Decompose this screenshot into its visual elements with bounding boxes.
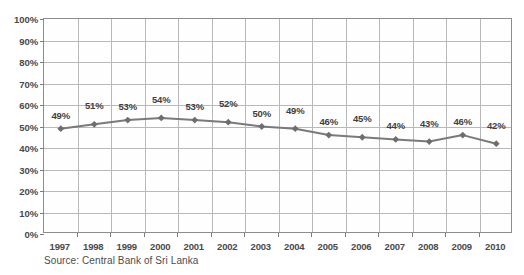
y-axis-tick-label: 60% <box>19 100 38 111</box>
x-axis-tick <box>77 233 78 237</box>
data-point-marker <box>493 140 500 147</box>
x-axis-tick-label: 2002 <box>217 241 237 252</box>
x-axis-tick-label: 1997 <box>50 241 70 252</box>
data-point-label: 53% <box>186 101 204 112</box>
x-axis-tick <box>378 233 379 237</box>
data-point-marker <box>325 132 332 139</box>
x-axis-tick-label: 2005 <box>318 241 338 252</box>
data-point-label: 45% <box>353 113 371 124</box>
y-axis-tick-label: 30% <box>19 164 38 175</box>
data-point-marker <box>292 125 299 132</box>
cut-off-title-sliver <box>0 0 524 8</box>
x-axis-tick <box>177 233 178 237</box>
data-point-marker <box>359 134 366 141</box>
y-axis-tick-label: 80% <box>19 57 38 68</box>
x-axis-tick-label: 2000 <box>150 241 170 252</box>
data-point-marker <box>191 117 198 124</box>
data-point-marker <box>124 117 131 124</box>
y-axis-tick-label: 40% <box>19 143 38 154</box>
x-axis-tick <box>278 233 279 237</box>
data-point-label: 43% <box>420 118 438 129</box>
data-point-marker <box>57 125 64 132</box>
data-point-marker <box>426 138 433 145</box>
data-point-label: 49% <box>286 105 304 116</box>
data-point-marker <box>225 119 232 126</box>
data-point-label: 44% <box>387 120 405 131</box>
y-axis-tick-label: 10% <box>19 207 38 218</box>
y-axis-tick-label: 50% <box>19 121 38 132</box>
data-point-marker <box>392 136 399 143</box>
x-axis-tick <box>244 233 245 237</box>
x-axis-tick <box>479 233 480 237</box>
x-axis-tick-label: 2008 <box>418 241 438 252</box>
data-point-label: 46% <box>320 116 338 127</box>
plot-area: 0%10%20%30%40%50%60%70%80%90%100% 49%51%… <box>43 18 512 233</box>
x-axis-tick-label: 2003 <box>251 241 271 252</box>
x-axis-tick-label: 2010 <box>485 241 505 252</box>
x-axis-tick <box>345 233 346 237</box>
data-series <box>44 19 511 232</box>
x-axis-tick-label: 2004 <box>284 241 304 252</box>
x-axis-tick <box>110 233 111 237</box>
data-point-label: 54% <box>152 94 170 105</box>
x-axis-tick <box>412 233 413 237</box>
x-axis-tick-label: 1998 <box>83 241 103 252</box>
x-axis-tick <box>211 233 212 237</box>
x-axis-tick <box>311 233 312 237</box>
y-axis-tick-label: 20% <box>19 186 38 197</box>
y-axis-tick-label: 90% <box>19 35 38 46</box>
data-point-label: 52% <box>219 98 237 109</box>
data-point-marker <box>258 123 265 130</box>
x-axis-tick-label: 2009 <box>452 241 472 252</box>
x-axis: 1997199819992000200120022003200420052006… <box>43 233 512 255</box>
y-axis-tick-label: 0% <box>24 229 38 240</box>
source-caption: Source: Central Bank of Sri Lanka <box>44 255 199 266</box>
data-point-label: 46% <box>454 116 472 127</box>
x-axis-tick-label: 1999 <box>117 241 137 252</box>
y-axis-tick-label: 70% <box>19 78 38 89</box>
data-point-marker <box>158 115 165 122</box>
data-point-label: 53% <box>119 101 137 112</box>
line-chart: 0%10%20%30%40%50%60%70%80%90%100% 49%51%… <box>0 12 524 238</box>
x-axis-tick <box>144 233 145 237</box>
data-point-label: 49% <box>52 110 70 121</box>
x-axis-tick-label: 2007 <box>385 241 405 252</box>
data-point-label: 51% <box>85 100 103 111</box>
data-point-label: 42% <box>487 120 505 131</box>
data-point-marker <box>91 121 98 128</box>
y-axis-tick-label: 100% <box>14 14 38 25</box>
x-axis-tick <box>445 233 446 237</box>
x-axis-tick-label: 2006 <box>351 241 371 252</box>
series-line-svg <box>44 19 513 234</box>
data-point-marker <box>459 132 466 139</box>
data-point-label: 50% <box>253 108 271 119</box>
x-axis-tick-label: 2001 <box>184 241 204 252</box>
